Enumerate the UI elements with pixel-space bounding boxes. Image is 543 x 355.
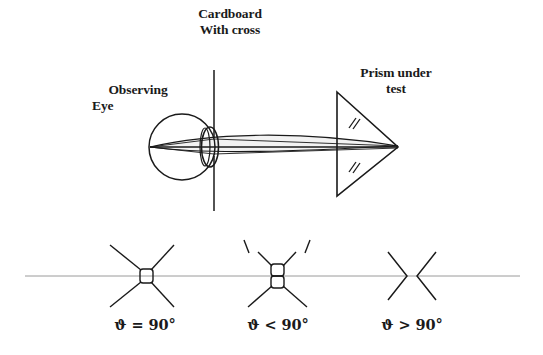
diagram-canvas	[0, 0, 543, 355]
prism-hatch-upper	[349, 118, 360, 129]
observing-eye-label-line2: Eye	[92, 98, 184, 114]
cardboard-label: Cardboard With cross	[171, 6, 289, 38]
split-node-upper-square	[271, 264, 284, 276]
observing-eye-label: Observing Eye	[92, 82, 184, 114]
cross-arm-lower-left	[110, 282, 141, 307]
prism-label-line2: test	[337, 81, 455, 97]
case-figure-less	[244, 240, 310, 307]
cross-arm-lower-right	[151, 282, 174, 307]
angle-label-greater: ϑ > 90°	[364, 316, 460, 333]
prism-hatch-lower	[349, 162, 360, 173]
optical-diagram-figure: Cardboard With cross Observing Eye Prism…	[0, 0, 543, 355]
angle-label-less: ϑ < 90°	[230, 316, 326, 333]
lower-v-left-arm	[248, 286, 272, 307]
lower-scene	[25, 240, 520, 307]
cross-arm-upper-left	[110, 245, 141, 270]
detached-stroke-right	[305, 240, 310, 253]
cardboard-label-line1: Cardboard	[171, 6, 289, 22]
cardboard-label-line2: With cross	[171, 22, 289, 38]
detached-stroke-left	[244, 240, 249, 253]
prism-label: Prism under test	[337, 65, 455, 97]
upper-v-right-arm	[283, 252, 296, 266]
observing-eye-label-line1: Observing	[92, 82, 184, 98]
upper-v-left-arm	[258, 252, 272, 266]
split-node-lower-square	[271, 276, 284, 288]
angle-label-equal: ϑ = 90°	[97, 316, 193, 333]
lower-v-right-arm	[283, 286, 307, 307]
cross-arm-upper-right	[151, 245, 174, 270]
prism-label-line1: Prism under	[337, 65, 455, 81]
light-beam	[150, 135, 398, 154]
